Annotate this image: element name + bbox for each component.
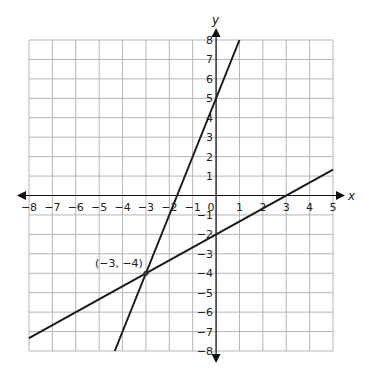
x-tick-label: −4 xyxy=(114,201,130,214)
axes xyxy=(17,28,345,363)
x-tick-label: −6 xyxy=(68,201,84,214)
intersection-point xyxy=(143,271,148,276)
x-tick-label: −7 xyxy=(44,201,60,214)
x-tick-label: 3 xyxy=(283,201,290,214)
y-tick-label: 1 xyxy=(206,170,213,183)
y-tick-label: 6 xyxy=(206,73,213,86)
x-tick-label: 1 xyxy=(236,201,243,214)
x-tick-label: −3 xyxy=(138,201,154,214)
y-tick-label: −8 xyxy=(197,345,213,358)
y-tick-label: 7 xyxy=(206,53,213,66)
intersection-label: (−3, −4) xyxy=(95,257,143,270)
x-tick-label: 5 xyxy=(330,201,337,214)
y-tick-label: −3 xyxy=(197,248,213,261)
x-axis-label: x xyxy=(347,189,356,203)
x-tick-label: −5 xyxy=(91,201,107,214)
x-tick-label: −8 xyxy=(21,201,37,214)
coordinate-plane: −8−7−6−5−4−3−2−1012345−8−7−6−5−4−3−2−112… xyxy=(0,0,367,373)
y-tick-label: 2 xyxy=(206,151,213,164)
y-tick-label: −1 xyxy=(197,209,213,222)
y-tick-label: 8 xyxy=(206,34,213,47)
y-tick-label: −6 xyxy=(197,306,213,319)
x-axis-left-arrow-icon xyxy=(17,191,26,200)
y-tick-label: 5 xyxy=(206,92,213,105)
y-tick-label: −4 xyxy=(197,267,213,280)
y-axis-label: y xyxy=(211,13,220,27)
x-tick-label: 4 xyxy=(306,201,313,214)
y-tick-label: 3 xyxy=(206,131,213,144)
y-tick-label: −7 xyxy=(197,326,213,339)
x-axis-right-arrow-icon xyxy=(336,191,345,200)
y-tick-label: −5 xyxy=(197,287,213,300)
